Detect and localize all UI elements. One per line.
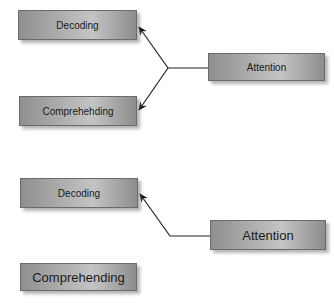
top-comprehending-label: Comprehehding <box>42 106 113 117</box>
bottom-attention-label: Attention <box>242 228 293 243</box>
top-arrows <box>139 27 208 110</box>
bottom-comprehending-box: Comprehending <box>20 263 137 291</box>
top-decoding-label: Decoding <box>56 20 98 31</box>
top-attention-box: Attention <box>208 53 325 81</box>
bottom-decoding-box: Decoding <box>20 178 138 208</box>
connector-arrows <box>0 0 334 303</box>
bottom-comprehending-label: Comprehending <box>32 270 125 285</box>
top-comprehending-box: Comprehehding <box>19 96 137 126</box>
top-decoding-box: Decoding <box>18 10 137 40</box>
top-attention-label: Attention <box>247 62 286 73</box>
bottom-attention-box: Attention <box>210 220 326 250</box>
bottom-decoding-label: Decoding <box>58 188 100 199</box>
bottom-arrow <box>140 194 210 236</box>
